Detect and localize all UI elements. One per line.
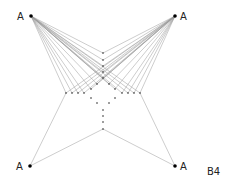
- inner-node: [102, 59, 104, 61]
- edge: [31, 16, 78, 93]
- edge: [31, 16, 72, 93]
- inner-node: [77, 92, 79, 94]
- edge: [134, 16, 175, 93]
- edge: [103, 129, 175, 166]
- inner-node: [96, 83, 98, 85]
- hub-label-top-left: A: [17, 11, 24, 22]
- edge: [31, 16, 66, 93]
- edge: [140, 16, 175, 93]
- hub-node: [29, 14, 33, 18]
- graph-diagram: A A A A B4: [0, 0, 248, 189]
- inner-node: [139, 92, 141, 94]
- inner-node: [127, 92, 129, 94]
- edge: [30, 129, 103, 166]
- inner-node: [102, 77, 104, 79]
- inner-node: [96, 102, 98, 104]
- inner-node: [90, 97, 92, 99]
- inner-node: [108, 83, 110, 85]
- edge: [31, 16, 128, 93]
- edge: [140, 93, 175, 166]
- inner-node: [65, 92, 67, 94]
- inner-node: [133, 92, 135, 94]
- inner-node: [83, 92, 85, 94]
- edge: [128, 16, 175, 93]
- inner-node: [102, 109, 104, 111]
- inner-node: [102, 121, 104, 123]
- hub-label-bottom-left: A: [16, 161, 23, 172]
- hub-node: [28, 164, 32, 168]
- hub-node: [173, 14, 177, 18]
- inner-node: [121, 92, 123, 94]
- inner-node: [71, 92, 73, 94]
- edges: [30, 16, 175, 166]
- hub-node: [173, 164, 177, 168]
- edge: [30, 93, 66, 166]
- inner-node: [102, 71, 104, 73]
- inner-node: [114, 97, 116, 99]
- inner-node: [102, 65, 104, 67]
- edge: [31, 16, 91, 89]
- inner-node: [114, 88, 116, 90]
- inner-node: [102, 115, 104, 117]
- inner-node: [90, 88, 92, 90]
- inner-node: [108, 102, 110, 104]
- figure-caption: B4: [207, 166, 220, 177]
- hub-label-bottom-right: A: [180, 161, 187, 172]
- hub-label-top-right: A: [180, 11, 187, 22]
- edge: [78, 16, 175, 93]
- inner-node: [102, 128, 104, 130]
- edge: [115, 16, 175, 89]
- inner-node: [102, 52, 104, 54]
